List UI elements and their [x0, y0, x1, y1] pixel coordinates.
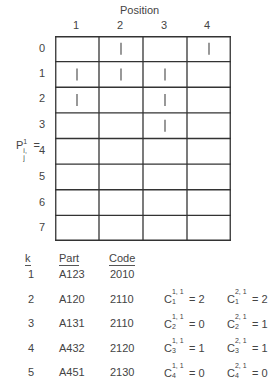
- count-symbol: C: [227, 342, 235, 354]
- count-indices: 1, 14: [172, 366, 186, 378]
- count-superscript: 1, 1: [172, 288, 184, 295]
- count-value: = 1: [186, 342, 205, 354]
- matrix-label-subscript: i, j: [23, 147, 27, 161]
- count-symbol: C: [164, 367, 172, 379]
- count-equation: C1, 14 = 0: [164, 366, 205, 379]
- count-superscript: 1, 1: [172, 313, 184, 320]
- count-equation: C2, 12 = 1: [227, 317, 268, 330]
- column-label: 3: [154, 19, 174, 31]
- count-subscript: 2: [235, 323, 239, 330]
- count-subscript: 4: [235, 372, 239, 379]
- count-value: = 0: [186, 318, 205, 330]
- count-subscript: 2: [172, 323, 176, 330]
- position-matrix: [55, 36, 231, 241]
- count-superscript: 2, 1: [235, 288, 247, 295]
- cell-k: 1: [28, 268, 34, 280]
- cell-part: A120: [59, 293, 85, 305]
- header-k: k: [25, 252, 31, 266]
- matrix-label: P1i, j =: [16, 138, 40, 151]
- row-label: 7: [36, 221, 48, 233]
- count-indices: 2, 11: [235, 292, 249, 304]
- count-equation: C1, 12 = 0: [164, 317, 205, 330]
- count-superscript: 1, 1: [172, 337, 184, 344]
- position-title: Position: [120, 4, 159, 16]
- row-label: 6: [36, 196, 48, 208]
- count-indices: 1, 13: [172, 341, 186, 353]
- count-subscript: 4: [172, 372, 176, 379]
- matrix-label-equals: =: [33, 139, 39, 151]
- count-symbol: C: [164, 293, 172, 305]
- count-equation: C1, 13 = 1: [164, 341, 205, 354]
- count-value: = 2: [249, 293, 268, 305]
- header-code: Code: [109, 252, 135, 266]
- cell-code: 2120: [110, 342, 134, 354]
- cell-code: 2110: [110, 317, 134, 329]
- count-symbol: C: [227, 318, 235, 330]
- cell-part: A131: [59, 317, 85, 329]
- count-indices: 1, 12: [172, 317, 186, 329]
- count-superscript: 1, 1: [172, 362, 184, 369]
- matrix-label-superscript: 1: [23, 138, 27, 145]
- cell-k: 5: [28, 366, 34, 378]
- row-label: 5: [36, 170, 48, 182]
- row-label: 2: [36, 92, 48, 104]
- count-equation: C2, 14 = 0: [227, 366, 268, 379]
- row-label: 1: [36, 67, 48, 79]
- count-indices: 2, 12: [235, 317, 249, 329]
- count-equation: C2, 11 = 2: [227, 292, 268, 305]
- count-symbol: C: [164, 342, 172, 354]
- cell-k: 3: [28, 317, 34, 329]
- count-indices: 2, 13: [235, 341, 249, 353]
- count-subscript: 1: [235, 298, 239, 305]
- count-equation: C2, 13 = 1: [227, 341, 268, 354]
- column-label: 4: [197, 19, 217, 31]
- matrix-grid: [55, 36, 231, 241]
- count-superscript: 2, 1: [235, 362, 247, 369]
- count-subscript: 1: [172, 298, 176, 305]
- cell-part: A432: [59, 342, 85, 354]
- cell-part: A451: [59, 366, 85, 378]
- row-label: 0: [36, 42, 48, 54]
- count-value: = 2: [186, 293, 205, 305]
- count-value: = 1: [249, 342, 268, 354]
- header-part: Part: [59, 252, 79, 266]
- cell-code: 2010: [110, 268, 134, 280]
- matrix-label-base: P: [16, 139, 23, 151]
- count-indices: 1, 11: [172, 292, 186, 304]
- count-subscript: 3: [172, 347, 176, 354]
- count-superscript: 2, 1: [235, 337, 247, 344]
- cell-code: 2130: [110, 366, 134, 378]
- column-label: 1: [66, 19, 86, 31]
- count-equation: C1, 11 = 2: [164, 292, 205, 305]
- column-label: 2: [110, 19, 130, 31]
- count-value: = 0: [249, 367, 268, 379]
- cell-code: 2110: [110, 293, 134, 305]
- count-superscript: 2, 1: [235, 313, 247, 320]
- count-symbol: C: [164, 318, 172, 330]
- row-label: 3: [36, 118, 48, 130]
- cell-k: 2: [28, 293, 34, 305]
- count-symbol: C: [227, 293, 235, 305]
- cell-part: A123: [59, 268, 85, 280]
- count-value: = 0: [186, 367, 205, 379]
- count-indices: 2, 14: [235, 366, 249, 378]
- count-subscript: 3: [235, 347, 239, 354]
- count-symbol: C: [227, 367, 235, 379]
- cell-k: 4: [28, 342, 34, 354]
- count-value: = 1: [249, 318, 268, 330]
